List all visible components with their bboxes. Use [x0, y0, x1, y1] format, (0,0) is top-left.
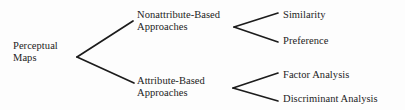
connector-nonattribute-to-similarity — [234, 13, 278, 27]
connector-attribute-to-discriminant-analysis — [233, 88, 278, 101]
node-perceptual-maps-line1: Perceptual — [13, 40, 58, 51]
node-perceptual-maps: Perceptual Maps — [13, 40, 58, 65]
connector-root-to-nonattribute — [77, 21, 133, 57]
perceptual-maps-tree-diagram: Perceptual Maps Nonattribute-Based Appro… — [0, 0, 405, 110]
node-nonattribute-based-approaches-line1: Nonattribute-Based — [137, 9, 220, 20]
node-discriminant-analysis: Discriminant Analysis — [283, 93, 378, 105]
node-attribute-based-approaches-line2: Approaches — [137, 87, 205, 99]
connector-attribute-to-factor-analysis — [233, 73, 278, 88]
node-nonattribute-based-approaches-line2: Approaches — [137, 21, 220, 33]
node-nonattribute-based-approaches: Nonattribute-Based Approaches — [137, 9, 220, 34]
connector-root-to-attribute — [77, 57, 134, 83]
node-factor-analysis: Factor Analysis — [283, 69, 349, 81]
node-perceptual-maps-line2: Maps — [13, 52, 58, 64]
node-similarity: Similarity — [283, 9, 326, 21]
node-attribute-based-approaches: Attribute-Based Approaches — [137, 75, 205, 100]
node-preference: Preference — [283, 35, 328, 47]
connector-nonattribute-to-preference — [234, 27, 278, 42]
node-attribute-based-approaches-line1: Attribute-Based — [137, 75, 205, 86]
